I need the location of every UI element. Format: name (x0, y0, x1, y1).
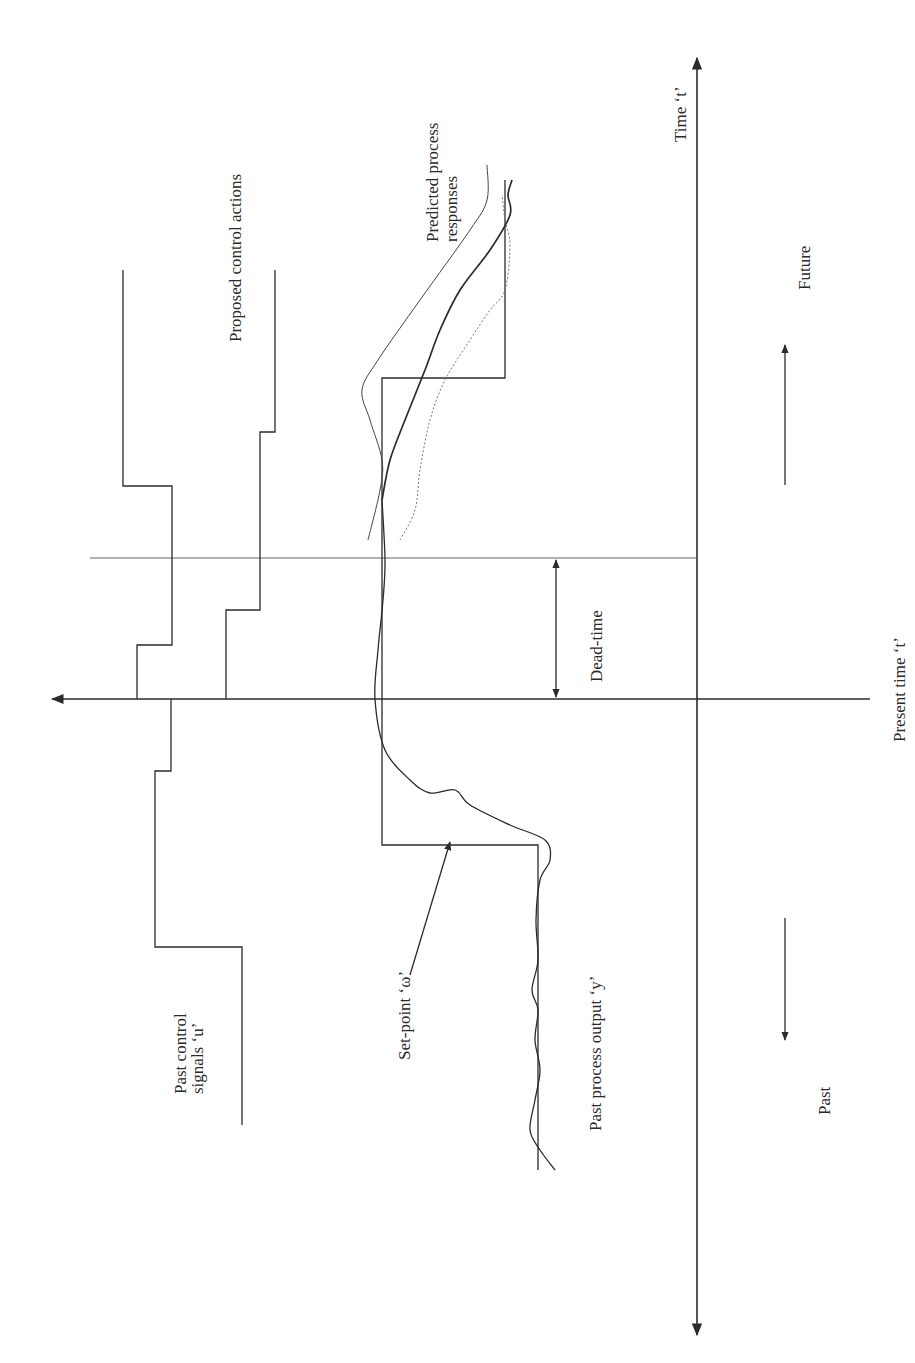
label-future: Future (795, 246, 814, 290)
label-past-control-2: signals ‘u’ (188, 1023, 207, 1094)
label-predicted-process-2: responses (442, 176, 461, 242)
label-past: Past (815, 1086, 834, 1115)
label-proposed-control-actions: Proposed control actions (226, 174, 245, 342)
past-process-output-curve (375, 500, 555, 1170)
predicted-response-curve-dotted (400, 195, 510, 540)
label-predicted-process-1: Predicted process (423, 123, 442, 242)
label-present-time: Present time ‘t’ (890, 637, 909, 742)
set-point-pointer-arrow (410, 842, 450, 975)
label-time: Time ‘t’ (671, 86, 690, 142)
label-set-point: Set-point ‘ω’ (395, 971, 414, 1060)
label-dead-time: Dead-time (587, 610, 606, 682)
label-past-process-output: Past process output ‘y’ (586, 976, 605, 1131)
mpc-diagram: Proposed control actions Predicted proce… (0, 0, 915, 1363)
proposed-control-action-line-1 (123, 270, 172, 699)
